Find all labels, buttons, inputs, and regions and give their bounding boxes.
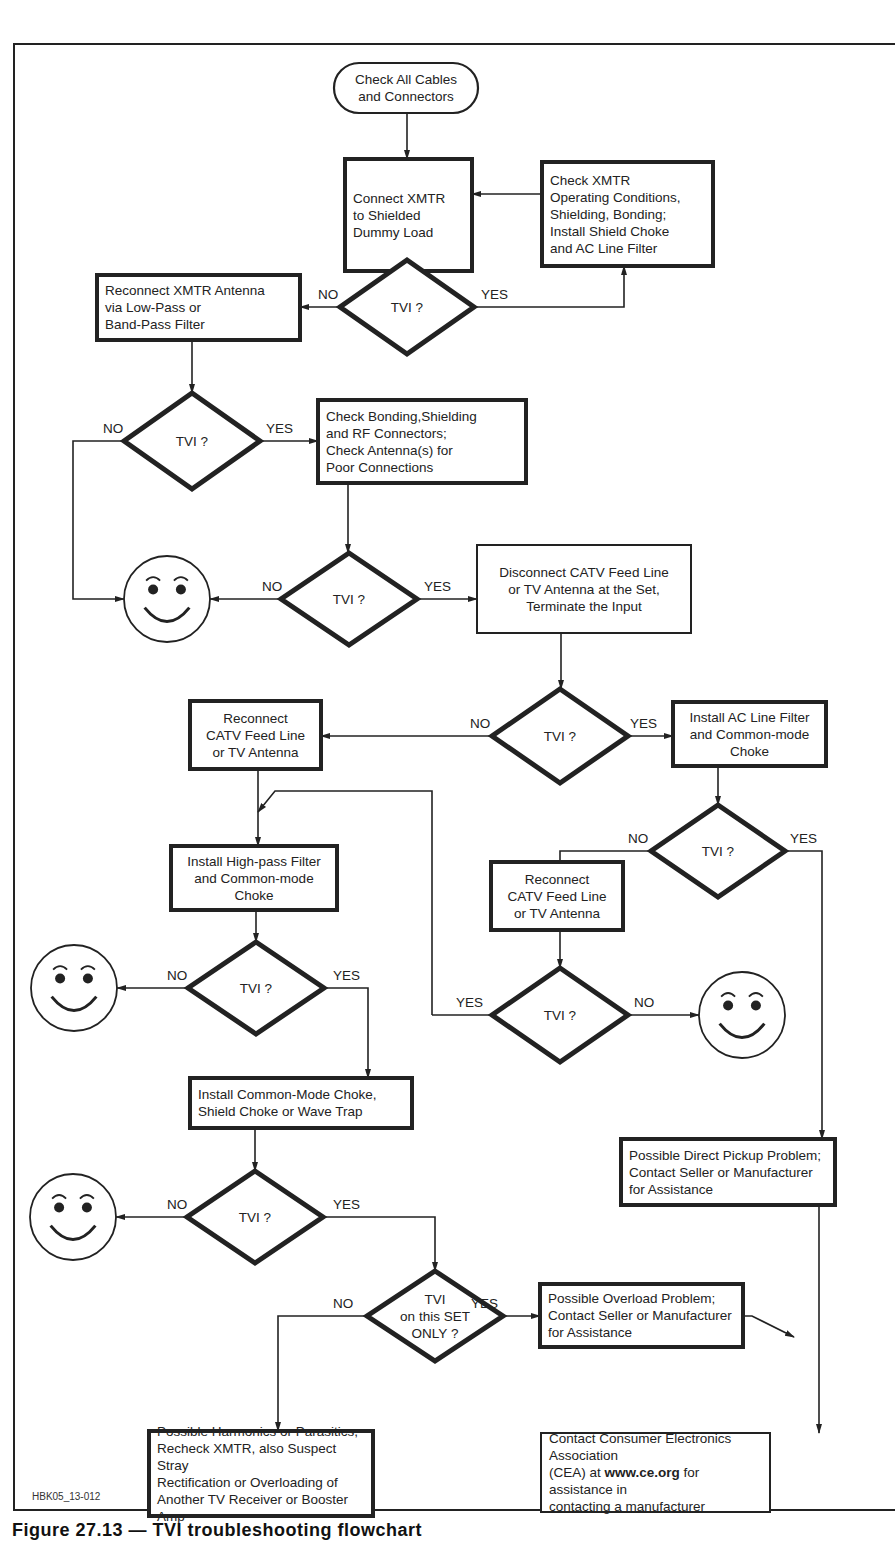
node-label-harmonics: Possible Harmonics or Parasitics, Rechec… xyxy=(157,1433,365,1514)
edge-label-yes: YES xyxy=(266,421,293,436)
decision-label-tvi2: TVI ? xyxy=(134,397,250,485)
node-label-disconnect-catv: Disconnect CATV Feed Line or TV Antenna … xyxy=(485,547,683,631)
edge-label-no: NO xyxy=(628,831,648,846)
edge-label-no: NO xyxy=(103,421,123,436)
decision-label-tvi-set-only: TVI on this SET ONLY ? xyxy=(377,1275,493,1357)
decision-label-tvi8: TVI ? xyxy=(197,1175,313,1259)
node-label-dummy-load: Connect XMTR to Shielded Dummy Load xyxy=(353,161,464,269)
cea-website-link[interactable]: www.ce.org xyxy=(605,1465,680,1480)
edge-label-no: NO xyxy=(470,716,490,731)
node-label-check-xmtr: Check XMTR Operating Conditions, Shieldi… xyxy=(550,164,705,264)
edge-label-yes: YES xyxy=(630,716,657,731)
decision-label-tvi1: TVI ? xyxy=(350,264,464,350)
connector-arrow xyxy=(323,1217,435,1271)
edge-label-no: NO xyxy=(167,1197,187,1212)
node-label-overload: Possible Overload Problem; Contact Selle… xyxy=(548,1286,735,1345)
node-label-install-highpass: Install High-pass Filter and Common-mode… xyxy=(179,848,329,908)
edge-label-no: NO xyxy=(318,287,338,302)
edge-label-no: NO xyxy=(262,579,282,594)
node-label-contact-cea: Contact Consumer Electronics Association… xyxy=(549,1435,762,1510)
smiley-face-icon xyxy=(699,972,785,1058)
smiley-face-icon xyxy=(124,556,210,642)
smiley-face-icon xyxy=(31,945,117,1031)
edge-label-yes: YES xyxy=(424,579,451,594)
edge-label-no: NO xyxy=(333,1296,353,1311)
figure-caption: Figure 27.13 — TVI troubleshooting flowc… xyxy=(12,1520,422,1541)
edge-label-yes: YES xyxy=(481,287,508,302)
node-label-install-ac-filter: Install AC Line Filter and Common-mode C… xyxy=(681,704,818,764)
decision-label-tvi4: TVI ? xyxy=(502,693,618,779)
edge-label-yes: YES xyxy=(333,968,360,983)
decision-label-tvi5: TVI ? xyxy=(661,809,775,893)
edge-label-yes: YES xyxy=(333,1197,360,1212)
node-label-install-cm-choke: Install Common-Mode Choke, Shield Choke … xyxy=(198,1080,404,1126)
decision-label-tvi7: TVI ? xyxy=(502,972,618,1058)
edge-label-no: NO xyxy=(167,968,187,983)
node-label-direct-pickup: Possible Direct Pickup Problem; Contact … xyxy=(629,1141,827,1203)
node-label-reconnect-antenna: Reconnect XMTR Antenna via Low-Pass or B… xyxy=(105,277,292,338)
decision-label-tvi3: TVI ? xyxy=(291,557,407,641)
connector-arrow xyxy=(743,1316,794,1337)
edge-label-no: NO xyxy=(634,995,654,1010)
node-label-reconnect-catv1: Reconnect CATV Feed Line or TV Antenna xyxy=(198,703,313,767)
smiley-face-icon xyxy=(30,1174,116,1260)
node-label-start: Check All Cables and Connectors xyxy=(334,63,478,113)
node-label-reconnect-catv2: Reconnect CATV Feed Line or TV Antenna xyxy=(499,864,615,928)
edge-label-yes: YES xyxy=(456,995,483,1010)
connector-arrow xyxy=(324,988,368,1078)
figure-code-label: HBK05_13-012 xyxy=(32,1491,100,1502)
decision-label-tvi6: TVI ? xyxy=(198,946,314,1030)
connector-arrow xyxy=(73,441,124,599)
node-label-check-bonding: Check Bonding,Shielding and RF Connector… xyxy=(326,402,518,481)
connector-arrow xyxy=(278,1316,367,1431)
cea-text: Contact Consumer Electronics Association… xyxy=(549,1430,762,1515)
edge-label-yes: YES xyxy=(790,831,817,846)
connector-arrow xyxy=(785,851,822,1139)
